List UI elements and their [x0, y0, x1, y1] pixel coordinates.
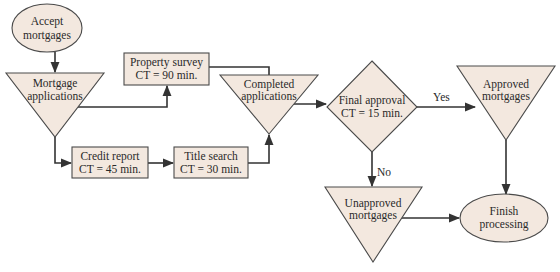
node-label-line1: Title search [184, 150, 238, 162]
node-label-line2: CT = 15 min. [341, 107, 403, 119]
edge-label-yes: Yes [433, 91, 450, 103]
node-unapproved-mortgages: Unapproved mortgages [325, 187, 422, 262]
node-label-line2: CT = 30 min. [180, 163, 242, 175]
node-label-line1: Final approval [339, 94, 406, 107]
node-label-line1: Finish [490, 205, 519, 217]
edge-mortgage-applications-to-credit-report [55, 137, 71, 163]
node-label-line2: CT = 45 min. [79, 163, 141, 175]
node-mortgage-applications: Mortgage applications [6, 73, 104, 137]
edge-title-search-to-completed-applications [248, 135, 269, 163]
edge-label-no: No [377, 166, 391, 178]
node-label-line1: Property survey [130, 56, 203, 69]
node-property-survey: Property survey CT = 90 min. [124, 53, 209, 85]
node-label-line2: CT = 90 min. [136, 69, 198, 81]
node-accept-mortgages: Accept mortgages [12, 4, 82, 52]
node-approved-mortgages: Approved mortgages [457, 66, 555, 140]
node-label-line2: applications [241, 90, 297, 103]
node-label-line2: processing [479, 218, 528, 231]
edge-property-survey-to-completed-applications [209, 67, 269, 75]
node-label-line1: Credit report [80, 150, 140, 163]
node-label-line2: mortgages [349, 209, 397, 222]
node-finish-processing: Finish processing [460, 194, 548, 242]
node-label-line1: Accept [31, 15, 64, 28]
node-title-search: Title search CT = 30 min. [174, 147, 248, 178]
node-label-line2: mortgages [23, 29, 71, 42]
ellipse-shape [12, 4, 82, 52]
node-label-line1: Mortgage [33, 77, 78, 90]
node-credit-report: Credit report CT = 45 min. [72, 147, 148, 178]
node-label-line2: applications [27, 90, 83, 103]
node-label-line2: mortgages [482, 90, 530, 103]
node-final-approval: Final approval CT = 15 min. [327, 61, 417, 152]
mortgage-process-flowchart: Yes No Accept mortgages Mortgage applica… [0, 0, 560, 272]
